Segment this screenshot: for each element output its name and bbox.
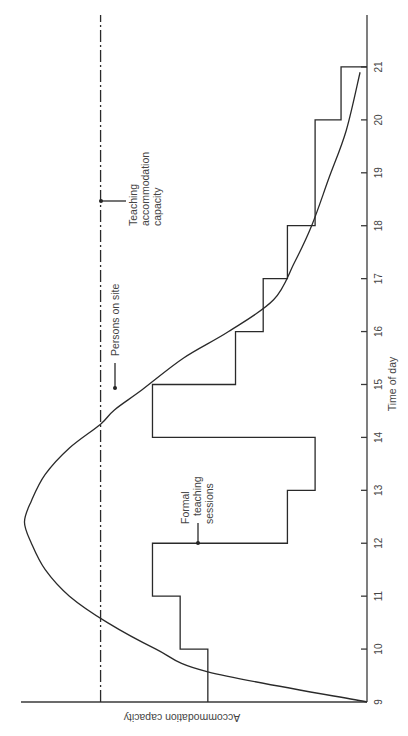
tick-label: 12: [373, 537, 384, 549]
tick-label: 21: [373, 61, 384, 73]
annotation-capacity-line1: Teaching: [127, 184, 139, 226]
annotation-sessions-line2: teaching: [191, 476, 203, 516]
annotation-sessions-line3: sessions: [203, 483, 215, 524]
tick-label: 17: [373, 273, 384, 285]
tick-label: 14: [373, 431, 384, 443]
tick-label: 13: [373, 484, 384, 496]
tick-label: 18: [373, 220, 384, 232]
annotation-persons-text: Persons on site: [109, 283, 121, 356]
annotation-sessions: Formal teaching sessions: [179, 476, 215, 545]
chart: 9101112131415161718192021 Time of day Ac…: [0, 0, 408, 736]
x-axis-label: Time of day: [386, 356, 398, 411]
tick-label: 15: [373, 378, 384, 390]
y-axis-label: Accommodation capacity: [123, 712, 240, 724]
annotation-capacity: Teaching accommodation capacity: [99, 152, 163, 226]
tick-label: 19: [373, 167, 384, 179]
annotation-sessions-line1: Formal: [179, 491, 191, 524]
time-axis-ticks: 9101112131415161718192021: [361, 61, 384, 705]
annotation-capacity-line3: capacity: [151, 187, 163, 226]
annotation-capacity-line2: accommodation: [139, 152, 151, 226]
tick-label: 16: [373, 326, 384, 338]
tick-label: 10: [373, 643, 384, 655]
tick-label: 9: [373, 699, 384, 705]
annotation-persons: Persons on site: [109, 283, 121, 390]
tick-label: 20: [373, 114, 384, 126]
tick-label: 11: [373, 591, 384, 602]
